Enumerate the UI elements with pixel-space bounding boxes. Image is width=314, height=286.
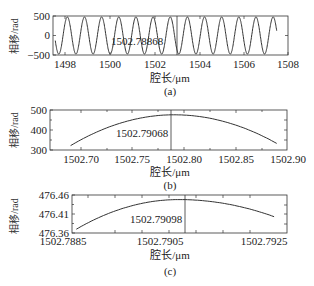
y-axis-label-a: 相移/rad bbox=[8, 18, 20, 54]
y-tick-label: 500 bbox=[31, 104, 48, 116]
x-tick-label: 1502.85 bbox=[218, 153, 254, 165]
x-axis-label-a: 腔长/μm bbox=[150, 71, 190, 84]
panel-a: 500 0 −500 1498 1500 1502 1504 1506 1508… bbox=[8, 10, 300, 98]
y-tick-label: 400 bbox=[31, 124, 48, 136]
ticks-b bbox=[50, 110, 287, 150]
x-tick-label: 1502 bbox=[144, 58, 166, 70]
caption-c: (c) bbox=[164, 265, 177, 278]
x-tick-label: 1502.7885 bbox=[40, 235, 87, 247]
panel-b: 500 400 300 1502.70 1502.75 1502.80 1502… bbox=[8, 104, 306, 192]
caption-b: (b) bbox=[164, 179, 177, 192]
x-tick-label: 1502.70 bbox=[63, 153, 99, 165]
x-tick-label: 1504 bbox=[189, 58, 212, 70]
x-tick-label: 1502.90 bbox=[270, 153, 306, 165]
caption-a: (a) bbox=[164, 85, 177, 98]
y-tick-label: 300 bbox=[31, 144, 48, 156]
y-axis-label-c: 相移/rad bbox=[8, 198, 20, 234]
annotation-c: 1502.79098 bbox=[130, 213, 183, 225]
y-tick-label: 476.41 bbox=[39, 208, 69, 220]
x-tick-label: 1502.7925 bbox=[241, 235, 288, 247]
plot-frame-a bbox=[53, 16, 288, 55]
data-line-a bbox=[55, 17, 276, 54]
y-tick-label: 500 bbox=[34, 10, 51, 22]
y-tick-label: 476.46 bbox=[39, 189, 70, 201]
y-tick-label: 0 bbox=[45, 29, 51, 41]
x-tick-label: 1508 bbox=[277, 58, 300, 70]
y-axis-label-b: 相移/rad bbox=[8, 112, 20, 148]
annotation-b: 1502.79068 bbox=[116, 127, 169, 139]
plot-frame-b bbox=[50, 110, 287, 150]
x-axis-label-c: 腔长/μm bbox=[150, 248, 190, 261]
x-tick-label: 1506 bbox=[233, 58, 256, 70]
panel-c: 476.46 476.41 476.36 1502.7885 1502.7905… bbox=[8, 189, 288, 278]
figure: 500 0 −500 1498 1500 1502 1504 1506 1508… bbox=[0, 0, 314, 286]
x-tick-label: 1502.7905 bbox=[137, 235, 184, 247]
data-line-b bbox=[71, 115, 277, 146]
x-tick-label: 1498 bbox=[54, 58, 77, 70]
y-ticks-a bbox=[53, 16, 288, 55]
y-tick-label: −500 bbox=[27, 49, 50, 61]
x-tick-label: 1500 bbox=[99, 58, 122, 70]
x-axis-label-b: 腔长/μm bbox=[150, 165, 190, 178]
x-tick-label: 1502.75 bbox=[114, 153, 150, 165]
annotation-a: 1502.78868 bbox=[111, 35, 164, 47]
x-tick-label: 1502.80 bbox=[166, 153, 202, 165]
